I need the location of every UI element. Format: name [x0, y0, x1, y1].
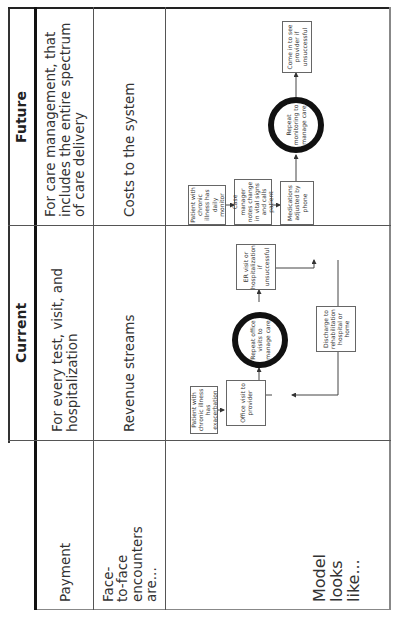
node-patient-exacerbation: Patient with chronic illness has exacerb…: [190, 386, 218, 434]
label-line: like...: [346, 554, 363, 602]
row-label-payment: Payment: [37, 441, 93, 610]
label-line: encounters: [130, 526, 144, 602]
node-patient-daily-monitor: Patient with chronic illness has daily m…: [188, 185, 226, 225]
rotated-slide: Current Future Payment Face- to-face enc…: [8, 7, 391, 610]
encounters-future: Costs to the system: [94, 9, 165, 225]
node-come-in-to-see-provider: Come in to see provider if unsuccessful: [282, 21, 312, 73]
row-label-model: Model looks like...: [166, 441, 389, 610]
encounters-current: Revenue streams: [94, 226, 165, 440]
row-label-face-to-face: Face- to-face encounters are...: [94, 441, 165, 610]
node-case-manager: Case manager notes change in vital signs…: [234, 179, 272, 225]
node-discharge: Discharge to rehabilitation hospital or …: [316, 306, 356, 352]
node-office-visit: Office visit to provider: [226, 380, 266, 426]
node-repeat-office-visits: Repeat office visits to manage care: [232, 312, 288, 368]
node-repeat-monitoring: Repeat monitoring to manage care: [268, 97, 324, 153]
column-header-future: Future: [8, 9, 34, 225]
payment-current: For every test, visit, and hospitalizati…: [37, 226, 93, 440]
future-model-diagram: Patient with chronic illness has daily m…: [166, 9, 389, 225]
table-bottom-border: [389, 7, 391, 610]
label-line: are...: [144, 526, 158, 602]
label-line: Face-: [101, 526, 115, 602]
node-medications-adjusted: Medications adjusted by phone: [280, 181, 314, 225]
comparison-table: Current Future Payment Face- to-face enc…: [8, 7, 391, 610]
current-model-diagram: Patient with chronic illness has exacerb…: [166, 226, 389, 440]
column-header-current: Current: [8, 226, 34, 440]
node-er-visit: ER visit or hospitalization if unsuccess…: [236, 244, 276, 290]
label-line: to-face: [115, 526, 129, 602]
payment-future: For care management, that includes the e…: [37, 9, 93, 225]
